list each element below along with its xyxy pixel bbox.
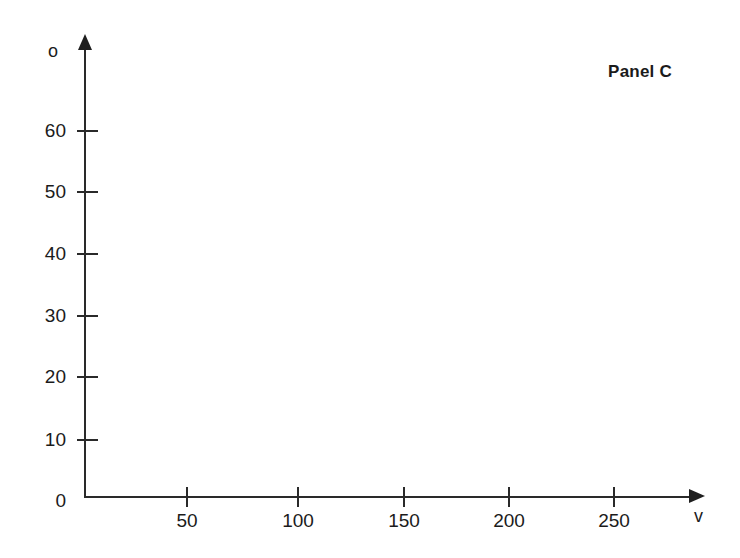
x-axis-tick — [297, 487, 299, 507]
y-axis-tick-label: 10 — [8, 429, 66, 451]
figure-panel-c: Panel C o v 60 50 40 30 20 10 0 50 100 1… — [0, 0, 740, 558]
y-axis-tick-label: 60 — [8, 120, 66, 142]
x-axis-tick — [186, 487, 188, 507]
x-axis-arrow-icon — [689, 489, 705, 503]
y-axis-label: o — [48, 41, 58, 62]
y-axis-tick — [77, 253, 98, 255]
x-axis-tick-label: 150 — [364, 510, 444, 532]
x-axis-tick — [403, 487, 405, 507]
y-axis-tick-label: 20 — [8, 366, 66, 388]
x-axis-tick-label: 100 — [258, 510, 338, 532]
x-axis-tick-label: 50 — [147, 510, 227, 532]
y-axis-tick — [77, 439, 98, 441]
x-axis-label: v — [694, 506, 703, 527]
y-axis-tick — [77, 315, 98, 317]
y-axis-tick-label: 40 — [8, 243, 66, 265]
y-axis-tick — [77, 376, 98, 378]
x-axis-tick-label: 200 — [469, 510, 549, 532]
x-axis-tick — [613, 487, 615, 507]
y-axis-tick-label: 50 — [8, 181, 66, 203]
x-axis-tick — [508, 487, 510, 507]
y-axis-tick-label-zero: 0 — [8, 490, 66, 512]
y-axis-tick — [77, 130, 98, 132]
y-axis-line — [84, 48, 86, 498]
x-axis-line — [85, 496, 693, 498]
x-axis-tick-label: 250 — [574, 510, 654, 532]
y-axis-tick — [77, 191, 98, 193]
plot-area — [86, 48, 692, 496]
y-axis-arrow-icon — [78, 34, 92, 50]
y-axis-tick-label: 30 — [8, 305, 66, 327]
